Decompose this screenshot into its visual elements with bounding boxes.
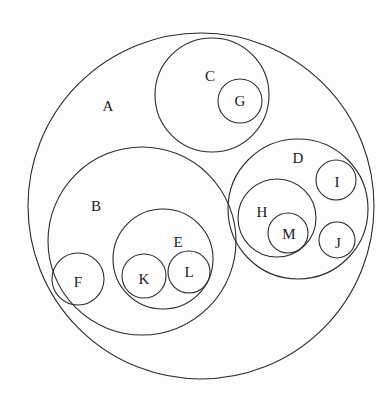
circle-c[interactable] [155,38,269,152]
circle-e[interactable] [113,209,213,309]
circle-b[interactable] [48,147,236,335]
circle-label-d: D [293,151,304,166]
circle-label-g: G [235,94,246,109]
circle-a[interactable] [28,33,374,379]
circle-label-f: F [74,275,82,290]
circle-label-c: C [205,69,215,84]
circle-label-i: I [335,175,340,190]
circle-label-l: L [184,265,193,280]
circle-label-b: B [91,199,101,214]
circle-label-e: E [173,235,182,250]
circle-label-a: A [103,99,114,114]
circle-set-svg [0,0,391,400]
circle-label-k: K [139,272,150,287]
venn-diagram-canvas: ABCDEFGHIJKLM [0,0,391,400]
circle-label-h: H [257,205,268,220]
circle-label-j: J [335,236,341,251]
circle-label-m: M [282,227,295,242]
